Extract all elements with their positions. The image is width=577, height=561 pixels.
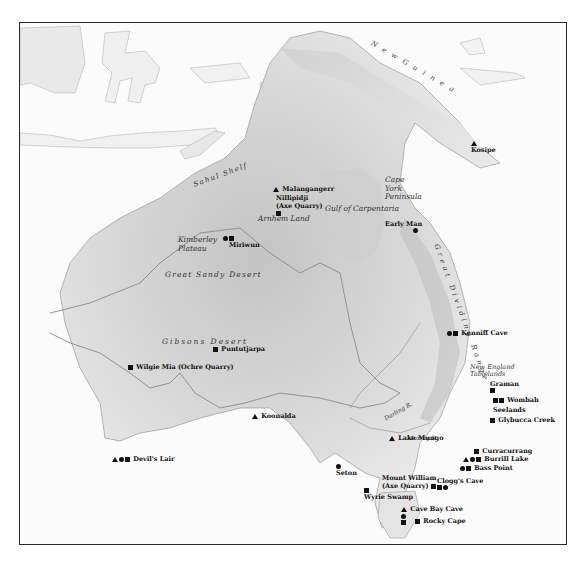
square-marker-icon: [437, 485, 442, 490]
sulawesi-landmass: [102, 31, 160, 103]
square-marker-icon: [125, 457, 130, 462]
borneo-landmass: [20, 26, 85, 93]
site-seelands[interactable]: Seelands: [493, 407, 526, 414]
site-puntutjarpa[interactable]: Puntutjarpa: [213, 346, 265, 353]
site-devils-lair[interactable]: Devil's Lair: [112, 456, 174, 463]
circle-marker-icon: [443, 485, 448, 490]
circle-marker-icon: [119, 457, 124, 462]
site-malangangerr[interactable]: Malangangerr: [273, 186, 334, 193]
circle-marker-icon: [413, 228, 418, 233]
square-marker-icon: [499, 398, 504, 403]
new-britain-island: [460, 38, 525, 85]
site-lake-mungo[interactable]: Lake Mungo: [389, 435, 443, 442]
site-kosipe[interactable]: Kosipe: [471, 140, 496, 153]
square-marker-icon: [401, 520, 406, 525]
site-miriwun[interactable]: Miriwun: [223, 235, 260, 248]
square-marker-icon: [476, 457, 481, 462]
label-cape-york: Cape York Peninsula: [385, 176, 419, 202]
square-marker-icon: [276, 211, 281, 216]
site-cave-bay-cave[interactable]: Cave Bay Cave: [401, 506, 463, 513]
triangle-marker-icon: [252, 414, 258, 419]
square-marker-icon: [431, 484, 436, 489]
triangle-marker-icon: [463, 457, 469, 462]
label-gulf-of-carpentaria: Gulf of Carpentaria: [325, 205, 375, 214]
site-koonalda[interactable]: Koonalda: [252, 413, 296, 420]
triangle-marker-icon: [389, 436, 395, 441]
square-marker-icon: [474, 449, 479, 454]
label-new-england: New England Tablelands: [470, 364, 525, 379]
square-marker-icon: [490, 388, 495, 393]
square-marker-icon: [466, 466, 471, 471]
site-nillipidji[interactable]: Nillipidji (Axe Quarry): [276, 195, 326, 218]
site-wyrie-swamp[interactable]: Wyrie Swamp: [364, 487, 413, 500]
circle-marker-icon: [401, 514, 406, 519]
site-wombah[interactable]: Wombah: [493, 397, 539, 404]
square-marker-icon: [213, 347, 218, 352]
map-frame: N e w G u i n e a Sahul Shelf Arnhem Lan…: [19, 22, 567, 545]
triangle-marker-icon: [273, 187, 279, 192]
circle-marker-icon: [470, 457, 475, 462]
square-marker-icon: [128, 365, 133, 370]
site-kenniff-cave[interactable]: Kenniff Cave: [447, 330, 508, 337]
square-marker-icon: [490, 418, 495, 423]
square-marker-icon: [415, 519, 420, 524]
triangle-marker-icon: [401, 507, 407, 512]
circle-marker-icon: [447, 331, 452, 336]
site-early-man[interactable]: Early Man: [385, 221, 422, 234]
site-cloggs-cave[interactable]: Clogg's Cave: [437, 478, 483, 491]
square-marker-icon: [493, 398, 498, 403]
site-curracurrang[interactable]: Curracurrang: [474, 448, 532, 455]
site-burrill-lake[interactable]: Burrill Lake: [463, 456, 528, 463]
site-cave-bay-cave-stack: [401, 513, 407, 526]
site-seton[interactable]: Seton: [336, 463, 357, 476]
circle-marker-icon: [460, 466, 465, 471]
label-great-sandy-desert: Great Sandy Desert: [165, 271, 262, 280]
triangle-marker-icon: [112, 457, 118, 462]
site-rocky-cape[interactable]: Rocky Cape: [415, 518, 466, 525]
site-graman[interactable]: Graman: [490, 381, 519, 394]
site-bass-point[interactable]: Bass Point: [460, 465, 513, 472]
site-glybucca-creek[interactable]: Glybucca Creek: [490, 417, 555, 424]
circle-marker-icon: [223, 236, 228, 241]
site-wilgie-mia[interactable]: Wilgie Mia (Ochre Quarry): [128, 364, 234, 371]
square-marker-icon: [453, 331, 458, 336]
label-kimberley: Kimberley Plateau: [178, 236, 228, 253]
